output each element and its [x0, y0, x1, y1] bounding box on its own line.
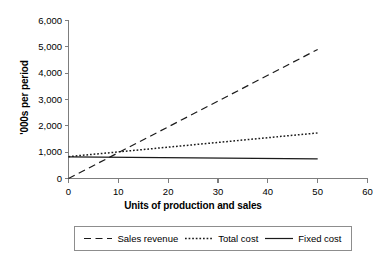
legend-label: Sales revenue — [117, 233, 178, 244]
chart-container: '000s per period 01,0002,0003,0004,0005,… — [0, 0, 386, 260]
chart-legend: Sales revenueTotal costFixed cost — [74, 226, 352, 251]
legend-swatch-solid-icon — [265, 234, 293, 243]
plot-area — [0, 0, 386, 260]
legend-label: Total cost — [218, 233, 258, 244]
x-axis-title: Units of production and sales — [0, 200, 386, 211]
legend-item-fixed-cost[interactable]: Fixed cost — [265, 233, 341, 244]
legend-swatch-dotted-icon — [185, 234, 213, 243]
legend-item-sales-revenue[interactable]: Sales revenue — [84, 233, 178, 244]
legend-item-total-cost[interactable]: Total cost — [185, 233, 258, 244]
series-line-total-cost — [69, 133, 318, 157]
legend-swatch-dashed-icon — [84, 234, 112, 243]
legend-label: Fixed cost — [298, 233, 341, 244]
series-line-fixed-cost — [69, 157, 318, 159]
data-series-layer — [69, 49, 318, 178]
